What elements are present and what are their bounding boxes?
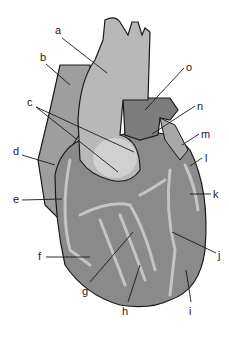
label-n: n: [197, 101, 203, 112]
heart-diagram: [0, 0, 229, 338]
label-k: k: [213, 189, 219, 200]
label-o: o: [186, 62, 192, 73]
label-m: m: [201, 129, 210, 140]
label-h: h: [122, 306, 128, 317]
label-l: l: [205, 153, 207, 164]
label-j: j: [218, 250, 220, 261]
label-g: g: [82, 286, 88, 297]
label-c: c: [27, 97, 33, 108]
label-i: i: [189, 306, 191, 317]
label-d: d: [13, 146, 19, 157]
label-e: e: [13, 194, 19, 205]
label-f: f: [38, 251, 41, 262]
label-b: b: [40, 52, 46, 63]
label-a: a: [55, 25, 61, 36]
aortic-root-highlight: [93, 138, 137, 178]
